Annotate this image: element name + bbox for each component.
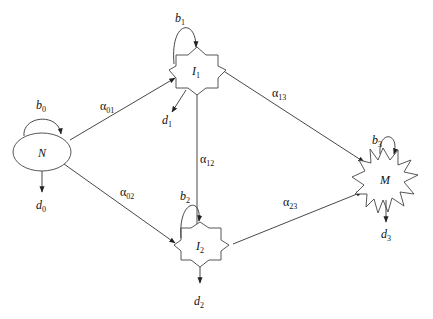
loop-b0-label: b0 [36,98,46,114]
out-d1-label: d1 [162,113,172,129]
node-n: N b0 d0 [13,98,71,214]
edge-label-a13: α13 [272,86,286,102]
out-d2-label: d2 [194,294,204,310]
compartment-diagram: N b0 d0 I1 b1 d1 I2 b2 d2 M b3 d3 α01 α0… [0,0,433,319]
loop-b3-label: b3 [372,133,382,149]
edge-i2-m [233,192,362,244]
node-n-label: N [37,146,47,160]
out-d3-label: d3 [381,227,391,243]
edge-label-a12: α12 [200,152,214,168]
edge-n-i1 [70,78,175,140]
node-m-label: M [379,173,391,187]
node-i1: I1 b1 d1 [162,11,226,129]
node-i2: I2 b2 d2 [174,189,229,310]
node-m: M b3 d3 [352,133,418,243]
loop-b1-label: b1 [175,11,185,27]
edge-label-a02: α02 [120,185,134,201]
loop-b2-label: b2 [180,189,190,205]
edge-label-a01: α01 [100,99,114,115]
out-d0-label: d0 [36,198,46,214]
edge-i1-m [222,70,364,162]
edge-label-a23: α23 [283,195,297,211]
edge-n-i2 [64,164,175,243]
